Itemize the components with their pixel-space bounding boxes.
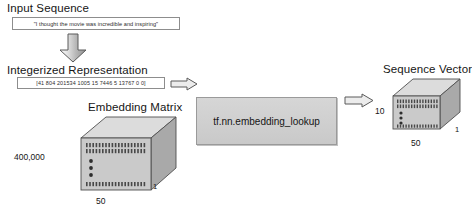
embedding-lookup-process-box: tf.nn.embedding_lookup bbox=[196, 97, 337, 145]
embedding-matrix-cols-label: 50 bbox=[96, 196, 105, 206]
integerized-array-text: [41 804 201534 1005 15 7446 5 13767 0 0] bbox=[36, 80, 145, 86]
right-arrow-to-process-icon bbox=[170, 77, 198, 91]
right-arrow-to-output-icon bbox=[344, 93, 374, 108]
sequence-vector-rows-label: 10 bbox=[375, 106, 384, 116]
down-arrow-icon bbox=[57, 33, 89, 63]
sequence-vector-heading: Sequence Vector bbox=[383, 63, 472, 75]
embedding-matrix-depth-label: 1 bbox=[153, 182, 157, 191]
input-sentence-text: "I thought the movie was incredible and … bbox=[34, 21, 158, 27]
embedding-matrix-heading: Embedding Matrix bbox=[88, 101, 182, 113]
embedding-matrix-rows-label: 400,000 bbox=[14, 152, 45, 162]
integerized-representation-heading: Integerized Representation bbox=[7, 64, 148, 76]
embedding-lookup-label: tf.nn.embedding_lookup bbox=[213, 116, 320, 127]
sequence-vector-depth-label: 1 bbox=[455, 125, 459, 134]
sequence-vector-cols-label: 50 bbox=[411, 138, 420, 148]
input-sequence-heading: Input Sequence bbox=[7, 2, 89, 14]
input-sentence-box: "I thought the movie was incredible and … bbox=[12, 17, 180, 30]
integerized-array-box: [41 804 201534 1005 15 7446 5 13767 0 0] bbox=[17, 77, 165, 89]
embedding-matrix-cube bbox=[75, 114, 183, 196]
